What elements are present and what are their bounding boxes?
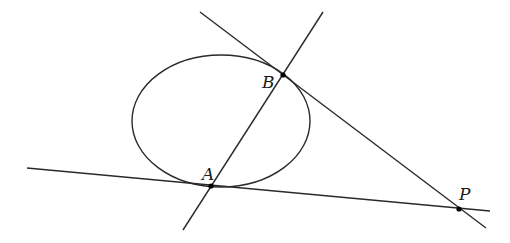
label-P: P (458, 184, 471, 204)
line-AB (183, 12, 323, 230)
label-A: A (200, 164, 214, 184)
point-A (208, 183, 213, 188)
tangent-line-at-A (27, 168, 490, 211)
point-P (456, 206, 461, 211)
tangent-line-at-B (200, 12, 486, 228)
label-B: B (261, 72, 275, 92)
geometry-diagram: A B P (0, 0, 510, 243)
point-B (280, 72, 285, 77)
